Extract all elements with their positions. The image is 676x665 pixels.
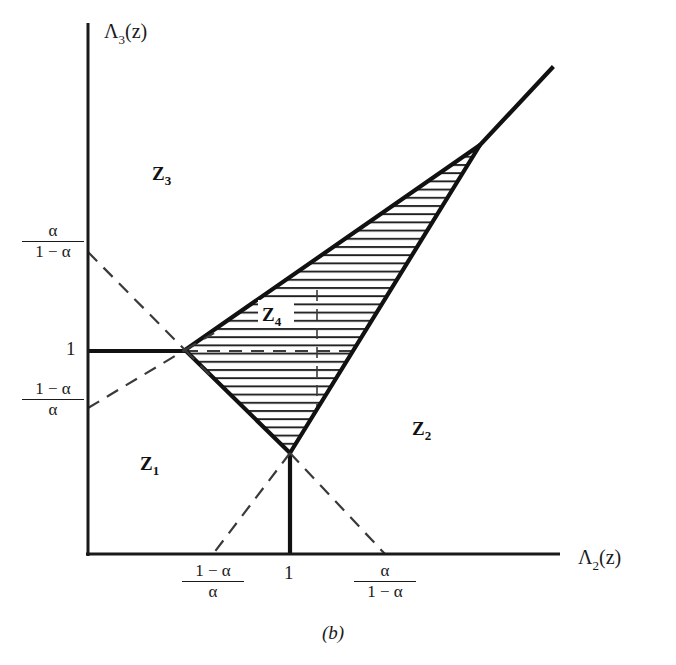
y-axis-label: Λ3(z) (104, 20, 147, 47)
dash-upper-left-to-vertex (88, 252, 185, 350)
x-tick-alpha-over-one-minus-alpha: α 1 − α (354, 562, 416, 601)
solid-ray-upper-right (480, 68, 552, 145)
x-tick-one: 1 (284, 562, 294, 584)
y-tick-one-minus-alpha-over-alpha: 1 − α α (22, 380, 84, 419)
y-tick-2-numerator: 1 − α (22, 380, 84, 400)
x-tick-0-numerator: 1 − α (182, 562, 244, 582)
zone-label-z2: Z2 (412, 418, 431, 443)
x-tick-one-minus-alpha-over-alpha: 1 − α α (182, 562, 244, 601)
dash-bottom-to-x-left (213, 453, 290, 554)
x-axis-label: Λ2(z) (578, 546, 621, 573)
zone-label-z3: Z3 (152, 163, 172, 188)
y-tick-2-denominator: α (22, 400, 84, 419)
y-tick-one: 1 (66, 338, 76, 360)
x-tick-0-denominator: α (182, 582, 244, 601)
dash-bottom-to-x-right (290, 453, 385, 554)
zone-label-z1: Z1 (140, 453, 159, 478)
y-tick-alpha-over-one-minus-alpha: α 1 − α (22, 222, 84, 261)
z4-hatch-fill (185, 145, 480, 453)
figure-panel-b: Λ3(z) Λ2(z) Z1 Z2 Z3 Z4 α 1 − α 1 1 − α … (0, 0, 676, 665)
figure-caption: (b) (322, 622, 344, 644)
y-tick-0-numerator: α (22, 222, 84, 242)
region-z4-hatched (185, 145, 480, 453)
diagram-svg: Λ3(z) Λ2(z) Z1 Z2 Z3 Z4 (0, 0, 676, 665)
x-tick-2-denominator: 1 − α (354, 582, 416, 601)
x-tick-2-numerator: α (354, 562, 416, 582)
y-tick-0-denominator: 1 − α (22, 242, 84, 261)
dash-lower-left-to-vertex (88, 350, 185, 408)
zone-label-z4-group: Z4 (258, 300, 294, 329)
